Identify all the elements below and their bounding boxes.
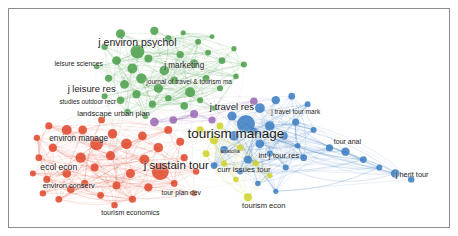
network-node[interactable] (152, 163, 169, 180)
network-node[interactable] (272, 96, 280, 104)
network-node[interactable] (190, 110, 198, 118)
network-node[interactable] (102, 93, 108, 99)
network-node[interactable] (142, 113, 148, 119)
network-node[interactable] (160, 66, 170, 76)
network-node[interactable] (237, 145, 243, 151)
network-node[interactable] (193, 168, 199, 174)
network-node[interactable] (112, 56, 121, 65)
network-node[interactable] (326, 144, 333, 151)
network-node[interactable] (91, 164, 99, 172)
network-node[interactable] (283, 165, 289, 171)
network-node[interactable] (305, 101, 311, 107)
network-node[interactable] (101, 43, 107, 49)
network-node[interactable] (177, 51, 184, 58)
network-node[interactable] (233, 177, 239, 183)
network-node[interactable] (116, 29, 125, 38)
network-node[interactable] (81, 180, 88, 187)
network-node[interactable] (94, 64, 100, 70)
network-node[interactable] (105, 75, 112, 82)
network-node[interactable] (210, 34, 215, 39)
network-node[interactable] (233, 74, 239, 80)
network-node[interactable] (237, 169, 243, 175)
network-node[interactable] (265, 121, 275, 131)
network-node[interactable] (90, 137, 103, 150)
network-node[interactable] (164, 126, 172, 134)
network-node[interactable] (138, 131, 147, 140)
network-node[interactable] (117, 96, 125, 104)
network-node[interactable] (191, 190, 197, 196)
network-node[interactable] (341, 148, 349, 156)
network-node[interactable] (253, 161, 259, 167)
network-node[interactable] (180, 102, 188, 110)
network-node[interactable] (150, 118, 159, 127)
network-node[interactable] (217, 123, 224, 130)
network-node[interactable] (211, 106, 216, 111)
network-node[interactable] (154, 143, 164, 153)
network-node[interactable] (219, 57, 226, 64)
network-node[interactable] (62, 125, 72, 135)
network-node[interactable] (391, 169, 400, 178)
network-node[interactable] (208, 116, 215, 123)
network-node[interactable] (311, 127, 317, 133)
network-node[interactable] (181, 154, 188, 161)
network-node[interactable] (255, 103, 265, 113)
network-graph-canvas[interactable] (9, 9, 449, 227)
network-node[interactable] (165, 35, 172, 42)
network-node[interactable] (144, 183, 152, 191)
network-node[interactable] (295, 143, 301, 149)
network-node[interactable] (127, 64, 137, 74)
network-node[interactable] (217, 85, 223, 91)
network-node[interactable] (376, 165, 382, 171)
network-node[interactable] (241, 62, 247, 68)
network-node[interactable] (360, 156, 367, 163)
network-node[interactable] (203, 150, 210, 157)
network-node[interactable] (62, 169, 71, 178)
network-node[interactable] (210, 135, 219, 144)
network-node[interactable] (169, 116, 177, 124)
network-node[interactable] (121, 138, 132, 149)
network-node[interactable] (250, 128, 258, 136)
network-node[interactable] (120, 80, 129, 89)
network-node[interactable] (288, 93, 295, 100)
network-node[interactable] (197, 97, 203, 103)
network-node[interactable] (113, 181, 121, 189)
network-node[interactable] (267, 173, 272, 178)
network-node[interactable] (221, 161, 227, 167)
network-node[interactable] (244, 193, 252, 201)
network-node[interactable] (171, 180, 178, 187)
network-node[interactable] (55, 196, 62, 203)
network-node[interactable] (280, 132, 288, 140)
network-node[interactable] (130, 45, 144, 59)
network-node[interactable] (108, 129, 118, 139)
network-node[interactable] (197, 126, 204, 133)
network-node[interactable] (75, 152, 85, 162)
network-node[interactable] (203, 75, 210, 82)
network-node[interactable] (211, 162, 218, 169)
network-node[interactable] (250, 97, 258, 105)
network-node[interactable] (154, 84, 163, 93)
network-node[interactable] (136, 73, 146, 83)
network-node[interactable] (267, 151, 273, 157)
network-node[interactable] (111, 202, 117, 208)
network-node[interactable] (126, 169, 135, 178)
network-node[interactable] (181, 30, 186, 35)
network-node[interactable] (98, 117, 105, 124)
network-node[interactable] (255, 139, 264, 148)
network-node[interactable] (229, 131, 239, 141)
network-node[interactable] (40, 190, 46, 196)
network-node[interactable] (129, 196, 136, 203)
network-node[interactable] (149, 101, 156, 108)
network-node[interactable] (124, 109, 130, 115)
network-node[interactable] (97, 192, 104, 199)
network-node[interactable] (144, 55, 152, 63)
network-node[interactable] (176, 138, 184, 146)
network-node[interactable] (231, 46, 236, 51)
network-node[interactable] (190, 59, 198, 67)
network-node[interactable] (165, 95, 171, 101)
network-node[interactable] (205, 50, 211, 56)
network-node[interactable] (139, 155, 149, 165)
network-node[interactable] (300, 154, 307, 161)
network-node[interactable] (195, 39, 201, 45)
network-node[interactable] (67, 186, 75, 194)
network-node[interactable] (49, 144, 57, 152)
